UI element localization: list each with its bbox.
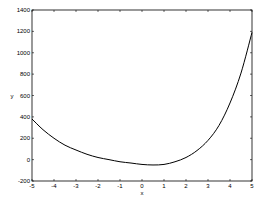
x-tick-label: 4 [228, 183, 232, 189]
x-tick-label: 2 [184, 183, 188, 189]
x-tick-label: 3 [206, 183, 210, 189]
x-tick-label: -5 [29, 183, 35, 189]
y-tick-label: 1400 [17, 7, 31, 13]
x-tick-label: -3 [73, 183, 79, 189]
x-tick-label: 1 [162, 183, 166, 189]
y-tick-label: -200 [18, 178, 31, 184]
plot-area [32, 10, 252, 181]
y-tick-label: 800 [20, 71, 31, 77]
y-tick-label: 600 [20, 93, 31, 99]
y-tick-label: 1200 [17, 28, 31, 34]
y-tick-label: 400 [20, 114, 31, 120]
y-tick-label: 0 [27, 157, 31, 163]
y-tick-label: 200 [20, 135, 31, 141]
x-tick-label: 5 [250, 183, 254, 189]
y-axis-label: y [11, 93, 14, 99]
x-tick-label: 0 [140, 183, 144, 189]
y-tick-label: 1000 [17, 50, 31, 56]
line-chart: -5-4-3-2-1012345 -2000200400600800100012… [0, 0, 255, 201]
x-tick-label: -2 [95, 183, 101, 189]
x-tick-label: -1 [117, 183, 123, 189]
x-tick-label: -4 [51, 183, 57, 189]
x-axis-label: x [141, 190, 144, 196]
